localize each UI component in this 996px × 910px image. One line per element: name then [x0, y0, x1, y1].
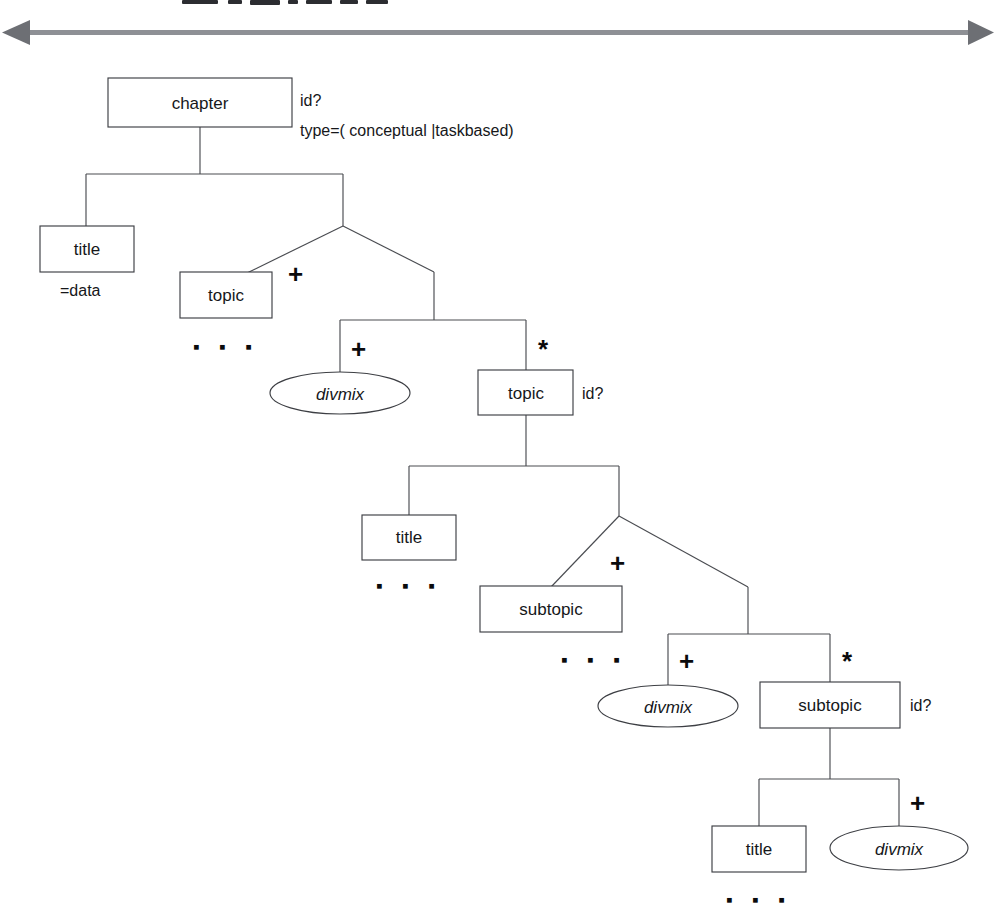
node-divmix-1[interactable]: divmix: [270, 372, 410, 414]
node-topic-2-label: topic: [508, 384, 544, 403]
node-divmix-1-label: divmix: [316, 385, 365, 404]
node-divmix-3[interactable]: divmix: [830, 826, 968, 870]
multiplicity-divmix-3: +: [910, 788, 925, 818]
annotation-subtopic-2-id: id?: [910, 697, 931, 714]
annotation-topic-2-id: id?: [582, 385, 603, 402]
diagram-page: chapter id? type=( conceptual |taskbased…: [0, 0, 996, 910]
node-title-3[interactable]: title: [712, 826, 806, 872]
node-topic-1[interactable]: topic: [180, 272, 272, 318]
node-subtopic-2-label: subtopic: [798, 696, 862, 715]
horizontal-double-arrow-rule: [2, 20, 994, 45]
multiplicity-subtopic-2: *: [842, 646, 853, 676]
node-subtopic-1-label: subtopic: [519, 600, 583, 619]
annotation-chapter-type: type=( conceptual |taskbased): [300, 122, 514, 139]
ellipsis-after-subtopic-1: ▪ ▪ ▪: [561, 649, 627, 670]
content-model-tree-diagram: chapter id? type=( conceptual |taskbased…: [0, 0, 996, 910]
node-topic-1-label: topic: [208, 286, 244, 305]
node-divmix-2[interactable]: divmix: [598, 685, 738, 727]
node-divmix-3-label: divmix: [875, 840, 924, 859]
multiplicity-divmix-2: +: [679, 646, 694, 676]
node-divmix-2-label: divmix: [644, 698, 693, 717]
node-chapter-label: chapter: [172, 94, 229, 113]
node-title-2-label: title: [396, 528, 422, 547]
node-title-1[interactable]: title: [40, 226, 134, 272]
ellipsis-after-title-3: ▪ ▪ ▪: [726, 889, 792, 910]
cropped-caption-fragment: [182, 0, 388, 5]
multiplicity-topic-2: *: [538, 334, 549, 364]
node-title-3-label: title: [746, 840, 772, 859]
node-subtopic-1[interactable]: subtopic: [480, 586, 622, 632]
multiplicity-divmix-1: +: [351, 334, 366, 364]
node-subtopic-2[interactable]: subtopic: [760, 682, 900, 728]
node-chapter[interactable]: chapter: [108, 78, 292, 127]
multiplicity-topic-1: +: [288, 259, 303, 289]
node-title-2[interactable]: title: [362, 515, 456, 560]
ellipsis-after-topic-1: ▪ ▪ ▪: [193, 336, 259, 357]
annotation-title-data: =data: [60, 282, 101, 299]
node-title-1-label: title: [74, 240, 100, 259]
ellipsis-after-title-2: ▪ ▪ ▪: [376, 575, 442, 596]
annotation-chapter-id: id?: [300, 92, 321, 109]
node-topic-2[interactable]: topic: [478, 370, 573, 415]
multiplicity-subtopic-1: +: [610, 548, 625, 578]
